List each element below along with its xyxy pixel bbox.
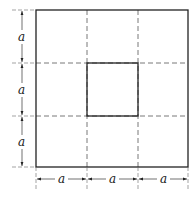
inner-square: [87, 63, 138, 116]
left-label-top: a: [18, 30, 25, 44]
left-label-bottom: a: [18, 135, 25, 149]
outer-square: [36, 10, 188, 167]
square-grid-diagram: a a a a a a: [0, 0, 196, 198]
dashed-grid-lines: [36, 10, 188, 167]
bottom-label-left: a: [58, 172, 65, 186]
left-label-middle: a: [18, 83, 25, 97]
bottom-label-right: a: [160, 172, 167, 186]
bottom-label-middle: a: [109, 172, 116, 186]
